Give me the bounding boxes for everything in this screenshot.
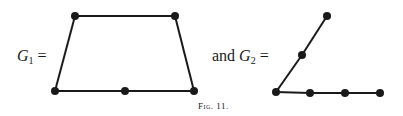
graph-drawing: [0, 0, 403, 116]
graph-edge: [276, 92, 310, 93]
g2-label-equals: =: [260, 47, 269, 64]
g2-label: and G2 =: [212, 47, 269, 66]
graph-edge: [276, 55, 302, 92]
figure-11: G1 = and G2 = Fig. 11.: [0, 0, 403, 116]
graph-vertex: [171, 12, 179, 20]
g1-label-sub: 1: [29, 55, 34, 66]
graph-vertex: [71, 12, 79, 20]
graph-vertex: [323, 12, 331, 20]
g1-label-equals: =: [38, 47, 47, 64]
g1-label: G1 =: [17, 47, 47, 66]
figure-caption: Fig. 11.: [198, 101, 229, 111]
graph-vertex: [306, 89, 314, 97]
graph-vertex: [341, 89, 349, 97]
graph-vertex: [51, 87, 59, 95]
graph-edge: [302, 16, 327, 55]
g1-label-var: G: [17, 47, 29, 64]
graph-vertex: [190, 87, 198, 95]
g2-label-prefix: and: [212, 47, 235, 64]
graph-vertex: [121, 87, 129, 95]
graph-edge: [175, 16, 194, 91]
graph-edge: [55, 16, 75, 91]
g2-label-var: G: [239, 47, 251, 64]
graph-vertex: [376, 89, 384, 97]
graph-vertex: [272, 88, 280, 96]
graph-vertex: [298, 51, 306, 59]
g2-label-sub: 2: [251, 55, 256, 66]
